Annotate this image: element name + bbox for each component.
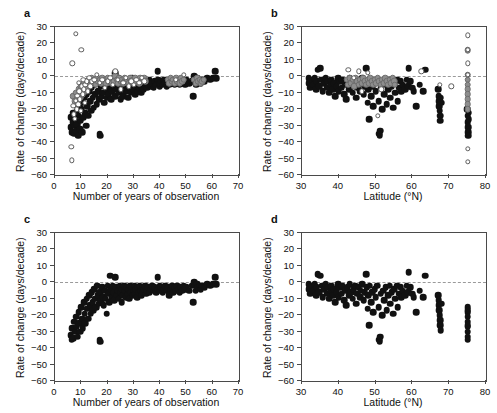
data-point-black — [464, 322, 471, 329]
y-tick — [50, 298, 54, 299]
y-tick — [50, 314, 54, 315]
y-tick — [297, 232, 301, 233]
y-tick — [297, 158, 301, 159]
x-tick — [238, 380, 239, 384]
y-tick — [50, 158, 54, 159]
data-point-open — [375, 113, 380, 118]
data-point-black — [190, 93, 197, 100]
data-point-black — [154, 68, 161, 75]
x-tick — [80, 174, 81, 178]
data-point-black — [377, 333, 384, 340]
data-point-open — [73, 31, 78, 36]
data-point-black — [437, 327, 444, 334]
y-tick — [297, 75, 301, 76]
y-tick — [297, 92, 301, 93]
y-tick — [297, 26, 301, 27]
data-point-black — [97, 132, 104, 139]
data-point-black — [83, 122, 90, 129]
data-point-black — [213, 75, 220, 82]
panel-b-xlabel: Latitude (°N) — [301, 190, 485, 202]
y-tick — [297, 364, 301, 365]
data-point-black — [416, 81, 423, 88]
data-point-black — [390, 104, 397, 111]
y-tick-label: 30 — [20, 227, 47, 238]
panel-d-ylabel: Rate of change (days/decade) — [261, 237, 273, 378]
data-point-black — [363, 271, 370, 278]
data-point-black — [394, 98, 401, 105]
data-point-black — [438, 300, 445, 307]
y-tick — [297, 298, 301, 299]
data-point-black — [464, 307, 471, 314]
data-point-black — [411, 294, 418, 301]
data-point-black — [416, 287, 423, 294]
x-tick — [448, 174, 449, 178]
y-tick — [50, 75, 54, 76]
data-point-open — [70, 60, 75, 65]
x-tick — [133, 174, 134, 178]
data-point-open — [465, 60, 470, 65]
data-point-open — [449, 83, 454, 88]
y-tick — [297, 265, 301, 266]
data-point-open — [346, 67, 351, 72]
data-point-black — [154, 274, 161, 281]
y-tick-label: 30 — [267, 227, 294, 238]
x-tick — [54, 380, 55, 384]
data-point-open — [356, 69, 361, 74]
panel-a-label: a — [24, 7, 30, 19]
data-point-black — [213, 281, 220, 288]
x-tick — [133, 380, 134, 384]
data-point-black — [343, 96, 350, 103]
data-point-black — [411, 88, 418, 95]
data-point-black — [438, 99, 445, 106]
panel-d-xlabel: Latitude (°N) — [301, 396, 485, 408]
data-point-gray — [181, 76, 188, 83]
y-tick — [297, 347, 301, 348]
y-tick — [297, 125, 301, 126]
data-point-black — [112, 274, 119, 281]
data-point-black — [79, 129, 86, 136]
x-tick — [485, 380, 486, 384]
data-point-gray — [391, 81, 398, 88]
y-tick — [50, 248, 54, 249]
y-tick — [297, 141, 301, 142]
y-tick — [50, 92, 54, 93]
x-tick — [301, 380, 302, 384]
data-point-black — [420, 294, 427, 301]
data-point-gray — [464, 106, 471, 113]
y-tick — [50, 42, 54, 43]
data-point-black — [383, 101, 390, 108]
y-tick — [50, 108, 54, 109]
y-tick — [297, 314, 301, 315]
data-point-open — [465, 146, 470, 151]
x-tick — [338, 380, 339, 384]
data-point-black — [405, 269, 412, 276]
data-point-black — [97, 338, 104, 345]
y-tick — [297, 248, 301, 249]
data-point-black — [465, 116, 472, 123]
y-tick — [50, 331, 54, 332]
data-point-black — [366, 116, 373, 123]
data-point-black — [420, 88, 427, 95]
y-tick — [50, 59, 54, 60]
data-point-black — [464, 337, 471, 344]
data-point-black — [405, 65, 412, 72]
data-point-black — [465, 132, 472, 139]
x-tick — [212, 380, 213, 384]
data-point-black — [390, 310, 397, 317]
x-tick — [107, 174, 108, 178]
y-tick — [297, 331, 301, 332]
panel-c-plot — [54, 232, 240, 382]
y-tick-label: 30 — [20, 21, 47, 32]
panel-c-ylabel: Rate of change (days/decade) — [14, 237, 26, 378]
data-point-black — [317, 65, 324, 72]
data-point-open — [437, 82, 442, 87]
data-point-black — [190, 299, 197, 306]
y-tick — [297, 281, 301, 282]
data-point-open — [69, 144, 74, 149]
data-point-open — [69, 157, 74, 162]
x-tick — [212, 174, 213, 178]
panel-a-xlabel: Number of years of observation — [54, 190, 238, 202]
x-tick — [159, 380, 160, 384]
data-point-black — [103, 310, 110, 317]
data-point-black — [375, 304, 382, 311]
